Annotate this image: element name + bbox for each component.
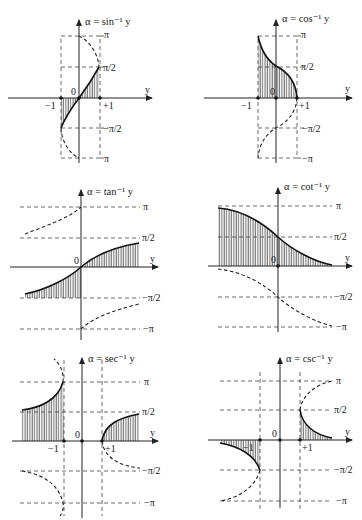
arccot-title: α = cot⁻¹ y [284, 181, 331, 192]
inverse-trig-figure: α = sin⁻¹ y π π/2 −π/2 π y 0 −1 +1 α = c… [0, 0, 362, 520]
arccos-y-label: y [345, 83, 350, 94]
arccsc-origin: 0 [272, 428, 277, 439]
label-pi: π [301, 29, 306, 40]
arcsec-minus-one: −1 [48, 443, 59, 454]
arcsin-y-label: y [145, 84, 150, 95]
arccos-minus-one: −1 [241, 100, 252, 111]
arcsin-lower-branch [61, 128, 79, 158]
panel-arccot: α = cot⁻¹ y π π/2 −π/2 −π y 0 [208, 181, 352, 332]
panel-arcsec: α = sec⁻¹ y π π/2 −π/2 −π y 0 −1 +1 [12, 353, 160, 518]
arccos-origin: 0 [270, 86, 275, 97]
arcsin-title: α = sin⁻¹ y [85, 16, 131, 27]
arcsec-title: α = sec⁻¹ y [88, 353, 135, 364]
panel-arccsc: α = csc⁻¹ y π π/2 −π/2 −π y 0 −1 +1 [208, 353, 352, 510]
arcsin-upper-branch [79, 36, 99, 67]
label-half-pi: π/2 [334, 231, 347, 242]
label-pi: π [336, 375, 341, 386]
arccos-plus-one: +1 [299, 100, 310, 111]
panel-arctan: α = tan⁻¹ y π π/2 −π/2 −π y 0 [10, 186, 160, 340]
label-neg-half-pi: −π/2 [103, 123, 121, 134]
arccsc-y-label: y [345, 426, 350, 437]
label-pi: π [336, 200, 341, 211]
arcsec-origin: 0 [75, 429, 80, 440]
arcsin-minus-one: −1 [45, 100, 56, 111]
label-neg-pi: −π [336, 321, 347, 332]
label-neg-half-pi: −π/2 [334, 291, 352, 302]
label-neg-pi: −π [302, 153, 313, 164]
arcsin-plus-one: +1 [103, 100, 114, 111]
arccos-title: α = cos⁻¹ y [282, 13, 330, 24]
label-neg-half-pi: −π/2 [142, 292, 160, 303]
arccsc-plus-one: +1 [302, 442, 313, 453]
label-neg-half-pi: −π/2 [142, 465, 160, 476]
label-half-pi: π/2 [103, 62, 116, 73]
arccot-origin: 0 [271, 254, 276, 265]
panel-arccos: α = cos⁻¹ y π π/2 −π/2 −π y 0 −1 +1 [204, 13, 352, 164]
label-pi: π [104, 29, 109, 40]
label-neg-pi: −π [336, 495, 347, 506]
label-neg-half-pi: −π/2 [302, 123, 320, 134]
arctan-upper-branch [25, 207, 81, 234]
arctan-lower-branch [81, 304, 139, 329]
arcsec-left-lower-branch [22, 471, 63, 516]
arccot-lower-branch [218, 269, 332, 326]
label-half-pi: π/2 [301, 61, 314, 72]
label-neg-half-pi: −π/2 [334, 464, 352, 475]
arcsec-upper-branch [54, 359, 63, 382]
label-neg-pi: π [104, 153, 109, 164]
arcsec-y-label: y [150, 427, 155, 438]
label-pi: π [144, 376, 149, 387]
arccsc-upper-branch [300, 381, 332, 410]
arctan-title: α = tan⁻¹ y [87, 186, 134, 197]
panel-arcsin: α = sin⁻¹ y π π/2 −π/2 π y 0 −1 +1 [8, 16, 152, 164]
label-half-pi: π/2 [334, 404, 347, 415]
arcsec-plus-one: +1 [105, 443, 116, 454]
label-neg-pi: −π [143, 323, 154, 334]
label-half-pi: π/2 [142, 232, 155, 243]
arccsc-title: α = csc⁻¹ y [286, 353, 333, 364]
label-half-pi: π/2 [142, 406, 155, 417]
arccot-y-label: y [345, 252, 350, 263]
arccos-lower-branch [258, 98, 297, 158]
arcsin-origin: 0 [71, 86, 76, 97]
arctan-y-label: y [150, 253, 155, 264]
label-pi: π [143, 201, 148, 212]
arctan-origin: 0 [74, 255, 79, 266]
arccsc-lower-branch [220, 470, 260, 501]
label-neg-pi: −π [144, 497, 155, 508]
arcsec-shaded-region [22, 382, 139, 441]
arccsc-minus-one: −1 [243, 442, 254, 453]
